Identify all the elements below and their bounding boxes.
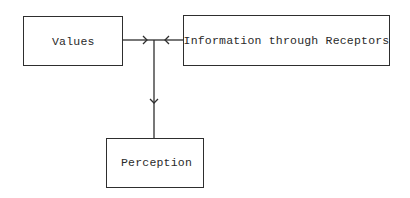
node-values: Values [23,16,123,66]
node-information-through-receptors: Information through Receptors [183,15,390,66]
node-information-label: Information through Receptors [184,34,390,47]
node-values-label: Values [52,35,95,48]
node-perception-label: Perception [121,156,192,169]
node-perception: Perception [106,138,204,188]
